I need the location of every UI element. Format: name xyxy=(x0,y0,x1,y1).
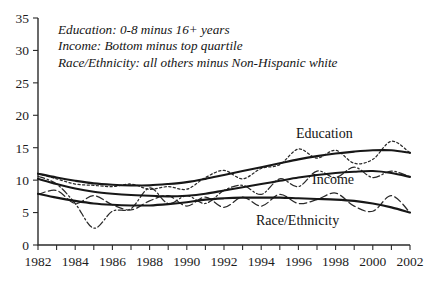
chart-container: 05101520253035 1982198419861988199019921… xyxy=(0,0,432,282)
chart-y-tick-labels: 05101520253035 xyxy=(16,11,30,253)
x-tick-label: 1998 xyxy=(322,254,349,269)
y-tick-label: 25 xyxy=(16,76,30,91)
x-tick-label: 2002 xyxy=(397,254,424,269)
x-tick-label: 1992 xyxy=(211,254,238,269)
chart-smooth-series xyxy=(38,150,410,213)
series-label-income: Income xyxy=(312,172,354,188)
y-tick-label: 35 xyxy=(16,11,30,26)
chart-raw-series xyxy=(38,141,410,228)
x-tick-label: 1990 xyxy=(173,254,200,269)
x-tick-label: 1988 xyxy=(136,254,163,269)
x-tick-label: 1982 xyxy=(25,254,52,269)
y-tick-label: 0 xyxy=(22,238,29,253)
series-label-race-ethnicity: Race/Ethnicity xyxy=(256,213,339,229)
y-tick-label: 10 xyxy=(16,173,30,188)
x-tick-label: 1996 xyxy=(285,254,312,269)
annotation-line-race-ethnicity: Race/Ethnicity: all others minus Non-His… xyxy=(58,55,337,71)
y-tick-label: 20 xyxy=(16,108,30,123)
x-tick-label: 1984 xyxy=(62,254,89,269)
x-tick-label: 1994 xyxy=(248,254,275,269)
annotation-line-education: Education: 0-8 minus 16+ years xyxy=(58,22,337,38)
x-tick-label: 2000 xyxy=(359,254,386,269)
series-label-education: Education xyxy=(296,126,353,142)
y-tick-label: 15 xyxy=(16,141,30,156)
y-tick-label: 30 xyxy=(16,43,30,58)
x-tick-label: 1986 xyxy=(99,254,126,269)
series-raw-education xyxy=(38,141,410,189)
annotation-line-income: Income: Bottom minus top quartile xyxy=(58,38,337,54)
y-tick-label: 5 xyxy=(22,205,29,220)
series-trend-race-ethnicity xyxy=(38,194,410,213)
chart-annotation-block: Education: 0-8 minus 16+ years Income: B… xyxy=(58,22,337,71)
chart-x-tick-labels: 1982198419861988199019921994199619982000… xyxy=(25,254,424,269)
